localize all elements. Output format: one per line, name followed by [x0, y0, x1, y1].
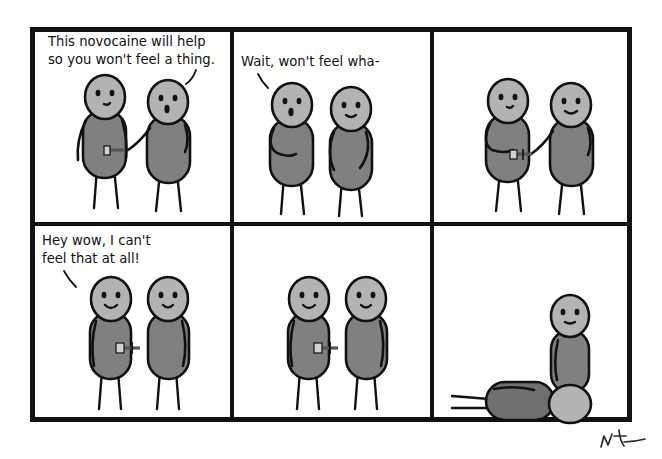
panel-1-caption-line-2: so you won't feel a thing.	[48, 52, 215, 67]
comic-strip: This novocaine will help so you won't fe…	[0, 0, 662, 459]
panel-4-caption-line-1: Hey wow, I can't	[42, 233, 151, 248]
comic-canvas: This novocaine will help so you won't fe…	[0, 0, 662, 459]
panel-1-caption-line-1: This novocaine will help	[47, 34, 206, 49]
panel-2-caption-line-1: Wait, won't feel wha-	[241, 54, 380, 69]
panel-4-caption-line-2: feel that at all!	[42, 251, 140, 266]
